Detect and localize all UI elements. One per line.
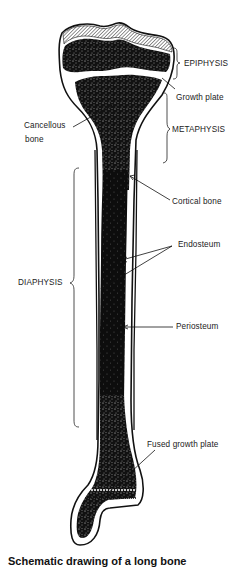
label-periosteum: Periosteum bbox=[176, 322, 218, 332]
cortical-bone-left bbox=[95, 150, 97, 440]
label-epiphysis: EPIPHYSIS bbox=[184, 59, 228, 69]
metaphysis-bracket bbox=[163, 93, 170, 163]
label-cancellous-line2: bone bbox=[25, 135, 44, 145]
label-cancellous-line1: Cancellous bbox=[24, 121, 66, 131]
label-growth-plate: Growth plate bbox=[176, 93, 224, 103]
label-fused-growth-plate: Fused growth plate bbox=[147, 440, 218, 450]
label-diaphysis: DIAPHYSIS bbox=[18, 278, 63, 288]
figure-caption: Schematic drawing of a long bone bbox=[8, 555, 186, 567]
label-cortical-bone: Cortical bone bbox=[172, 197, 222, 207]
diaphysis-bracket bbox=[70, 168, 79, 427]
medullary-cavity bbox=[100, 170, 128, 400]
label-endosteum: Endosteum bbox=[178, 240, 220, 250]
label-metaphysis: METAPHYSIS bbox=[172, 125, 225, 135]
